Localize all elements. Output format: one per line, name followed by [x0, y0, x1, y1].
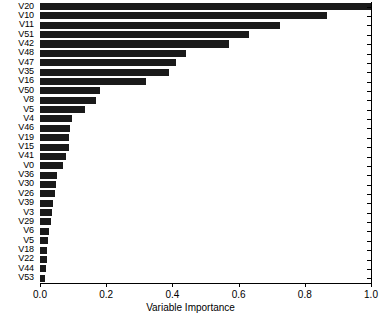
y-axis-tick	[367, 222, 371, 223]
y-axis-tick	[367, 54, 371, 55]
bar	[40, 22, 280, 29]
bar	[40, 247, 47, 254]
y-axis-tick	[367, 203, 371, 204]
y-axis-tick	[367, 100, 371, 101]
y-axis-tick	[367, 157, 371, 158]
bar	[40, 50, 186, 57]
x-axis-tick-label: 0.2	[99, 289, 113, 300]
x-axis-tick-label: 0.4	[165, 289, 179, 300]
y-axis-tick	[367, 7, 371, 8]
y-axis-tick	[367, 147, 371, 148]
x-axis-tick-label: 0.0	[33, 289, 47, 300]
bar	[40, 12, 327, 19]
bar-row	[40, 255, 371, 264]
y-axis-tick	[367, 128, 371, 129]
bar	[40, 218, 51, 225]
bar-row	[40, 227, 371, 236]
bar-row	[40, 11, 371, 20]
bar-row	[40, 58, 371, 67]
bar-row	[40, 208, 371, 217]
y-axis-tick	[367, 63, 371, 64]
bar-row	[40, 180, 371, 189]
bar-row	[40, 49, 371, 58]
bar-row	[40, 77, 371, 86]
bar	[40, 144, 69, 151]
bar-row	[40, 199, 371, 208]
y-axis-tick	[367, 44, 371, 45]
bar	[40, 31, 249, 38]
y-axis-tick	[367, 250, 371, 251]
y-axis-tick	[367, 194, 371, 195]
y-axis-tick	[367, 72, 371, 73]
bar	[40, 228, 49, 235]
x-axis-tick-label: 0.6	[232, 289, 246, 300]
y-axis-tick	[367, 25, 371, 26]
bar	[40, 200, 53, 207]
bar-row	[40, 21, 371, 30]
bar	[40, 59, 176, 66]
x-axis-tick	[40, 283, 41, 287]
bar-row	[40, 189, 371, 198]
bar-row	[40, 105, 371, 114]
x-axis-title: Variable Importance	[0, 302, 381, 313]
bar	[40, 162, 63, 169]
y-axis-tick	[367, 185, 371, 186]
bar-row	[40, 274, 371, 283]
bar	[40, 256, 47, 263]
bar-row	[40, 114, 371, 123]
y-axis-labels: V20V10V11V51V42V48V47V35V16V50V8V5V4V46V…	[0, 2, 37, 283]
x-axis-tick	[106, 283, 107, 287]
bar	[40, 134, 69, 141]
x-axis-tick	[172, 283, 173, 287]
y-axis-tick	[367, 138, 371, 139]
bar	[40, 78, 146, 85]
x-axis-tick-label: 0.8	[298, 289, 312, 300]
bar	[40, 181, 56, 188]
y-axis-tick	[367, 119, 371, 120]
bar-row	[40, 86, 371, 95]
y-axis-tick	[367, 91, 371, 92]
bar	[40, 69, 169, 76]
bar-row	[40, 246, 371, 255]
bar	[40, 125, 70, 132]
bar	[40, 40, 229, 47]
bar-row	[40, 68, 371, 77]
y-axis-tick	[367, 278, 371, 279]
bar	[40, 115, 72, 122]
bar-row	[40, 217, 371, 226]
bar-row	[40, 124, 371, 133]
bar-row	[40, 264, 371, 273]
bar	[40, 190, 55, 197]
bar	[40, 153, 66, 160]
bar-row	[40, 171, 371, 180]
bar-row	[40, 152, 371, 161]
x-axis-tick	[239, 283, 240, 287]
bar	[40, 87, 100, 94]
bar-row	[40, 2, 371, 11]
bar	[40, 237, 48, 244]
bar	[40, 275, 45, 282]
y-axis-tick	[367, 16, 371, 17]
y-axis-tick	[367, 260, 371, 261]
y-axis-tick	[367, 231, 371, 232]
y-axis-tick	[367, 241, 371, 242]
bar-row	[40, 39, 371, 48]
y-axis-tick	[367, 166, 371, 167]
x-axis-line	[40, 283, 372, 284]
y-axis-tick	[367, 110, 371, 111]
y-axis-tick	[367, 82, 371, 83]
bar	[40, 172, 57, 179]
bar-series	[40, 2, 371, 283]
bar	[40, 97, 96, 104]
y-axis-label: V53	[18, 273, 34, 282]
bar-row	[40, 236, 371, 245]
bar-row	[40, 161, 371, 170]
bar	[40, 3, 371, 10]
y-axis-line	[371, 2, 372, 283]
x-axis-tick-label: 1.0	[364, 289, 378, 300]
bar-row	[40, 30, 371, 39]
bar-row	[40, 143, 371, 152]
plot-area	[40, 2, 371, 283]
bar-row	[40, 96, 371, 105]
bar	[40, 106, 85, 113]
